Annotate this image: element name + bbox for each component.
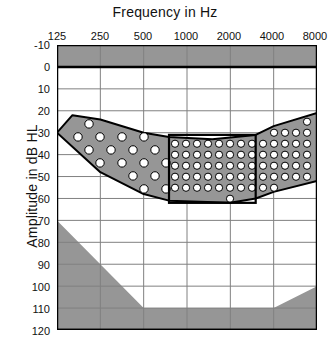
speech-dot [248,162,255,169]
y-tick-label-100: 100 [24,281,50,293]
y-tick-label-120: 120 [24,325,50,337]
speech-dot [107,146,115,154]
speech-dot [226,184,233,191]
speech-dot [140,185,148,193]
speech-dot [215,173,222,180]
y-tick-label-0: 0 [24,61,50,73]
speech-dot [292,173,299,180]
speech-dot [292,140,299,147]
speech-dot [248,140,255,147]
speech-dot [193,162,200,169]
speech-dot [226,195,233,202]
speech-dot [171,140,178,147]
x-tick-label-4000: 4000 [250,30,294,42]
speech-dot [303,118,310,125]
speech-dot [259,162,266,169]
speech-dot [226,162,233,169]
y-tick-label-110: 110 [24,303,50,315]
speech-dot [204,140,211,147]
speech-dot [204,151,211,158]
speech-dot [303,129,310,136]
y-tick-label-40: 40 [24,149,50,161]
speech-dot [270,151,277,158]
speech-dot [270,184,277,191]
speech-dot [259,173,266,180]
speech-dot [270,129,277,136]
speech-dot [237,162,244,169]
speech-dot [215,140,222,147]
speech-dot [270,162,277,169]
speech-dot [237,173,244,180]
speech-dot [259,140,266,147]
speech-dot [182,151,189,158]
speech-dot [182,162,189,169]
speech-dot [171,184,178,191]
y-tick-label-10: 10 [24,83,50,95]
speech-dot [281,162,288,169]
x-tick-label-1000: 1000 [164,30,208,42]
speech-dot [226,151,233,158]
speech-dot [74,133,82,141]
speech-dot [237,140,244,147]
speech-dot [96,159,104,167]
speech-dot [292,129,299,136]
speech-dot [215,151,222,158]
y-tick-label-60: 60 [24,193,50,205]
plot-area [57,45,317,330]
speech-dot [303,162,310,169]
speech-dot [85,120,93,128]
speech-dot [151,172,159,180]
speech-dot [259,184,266,191]
speech-dot [204,184,211,191]
speech-dot [193,151,200,158]
speech-dot [85,146,93,154]
x-tick-label-2000: 2000 [207,30,251,42]
speech-dot [270,140,277,147]
speech-dot [292,162,299,169]
speech-dot [215,184,222,191]
speech-dot [281,173,288,180]
speech-dot [303,173,310,180]
x-tick-label-8000: 8000 [293,30,330,42]
speech-dot [303,140,310,147]
speech-dot [129,172,137,180]
speech-dot [182,184,189,191]
speech-dot [182,173,189,180]
y-tick-label-80: 80 [24,237,50,249]
speech-dot [281,151,288,158]
speech-dot [171,151,178,158]
speech-dot [140,159,148,167]
speech-dot [193,184,200,191]
x-tick-label-250: 250 [78,30,122,42]
y-tick-label--10: -10 [24,39,50,51]
speech-dot [171,173,178,180]
speech-dot [248,173,255,180]
y-tick-label-70: 70 [24,215,50,227]
speech-dot [96,133,104,141]
y-tick-label-30: 30 [24,127,50,139]
speech-dot [171,162,178,169]
speech-dot [129,146,137,154]
speech-dot [204,162,211,169]
speech-dot [237,184,244,191]
audiogram-chart: Frequency in Hz Amplitude in dB HL 125 2… [0,0,330,347]
speech-dot [248,151,255,158]
speech-dot [226,173,233,180]
speech-dot [248,184,255,191]
y-tick-label-90: 90 [24,259,50,271]
speech-dot [118,133,126,141]
x-tick-label-500: 500 [121,30,165,42]
speech-dot [292,151,299,158]
speech-dot [237,151,244,158]
speech-dot [118,159,126,167]
speech-dot [140,133,148,141]
chart-canvas [57,45,317,330]
speech-dot [151,146,159,154]
x-axis-title: Frequency in Hz [0,4,330,20]
y-tick-label-50: 50 [24,171,50,183]
speech-dot [193,173,200,180]
speech-dot [303,151,310,158]
speech-dot [281,129,288,136]
speech-dot [193,140,200,147]
speech-dot [215,162,222,169]
